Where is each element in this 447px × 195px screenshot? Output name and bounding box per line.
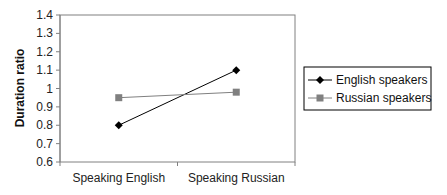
y-tick-label: 0.8 — [36, 118, 53, 132]
y-tick-label: 1.4 — [36, 8, 53, 22]
y-tick-label: 0.6 — [36, 155, 53, 169]
legend-label: Russian speakers — [336, 91, 431, 105]
legend: English speakersRussian speakers — [304, 67, 431, 110]
x-tick-label: Speaking English — [72, 171, 165, 185]
y-tick-label: 1 — [46, 82, 53, 96]
y-tick-label: 1.1 — [36, 63, 53, 77]
square-marker — [233, 89, 240, 96]
y-axis: 0.60.70.80.911.11.21.31.4 — [36, 8, 60, 169]
square-marker — [115, 94, 122, 101]
square-marker — [317, 95, 324, 102]
x-tick-label: Speaking Russian — [188, 171, 285, 185]
y-axis-title: Duration ratio — [13, 49, 27, 128]
y-tick-label: 0.7 — [36, 137, 53, 151]
y-tick-label: 1.3 — [36, 26, 53, 40]
y-tick-label: 1.2 — [36, 45, 53, 59]
legend-label: English speakers — [336, 73, 427, 87]
line-chart: 0.60.70.80.911.11.21.31.4 Speaking Engli… — [0, 0, 447, 195]
x-axis: Speaking EnglishSpeaking Russian — [60, 162, 295, 185]
y-tick-label: 0.9 — [36, 100, 53, 114]
plot-area — [60, 15, 295, 162]
